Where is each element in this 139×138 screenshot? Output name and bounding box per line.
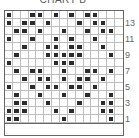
empty-stitch-cell bbox=[84, 43, 92, 51]
empty-stitch-cell bbox=[29, 99, 37, 107]
empty-stitch-cell bbox=[76, 59, 84, 67]
empty-stitch-cell bbox=[115, 67, 123, 75]
empty-stitch-cell bbox=[5, 51, 13, 59]
empty-stitch-cell bbox=[60, 43, 68, 51]
filled-stitch-cell bbox=[60, 27, 68, 35]
empty-stitch-cell bbox=[91, 75, 99, 83]
empty-stitch-cell bbox=[21, 51, 29, 59]
empty-stitch-cell bbox=[52, 67, 60, 75]
empty-stitch-cell bbox=[99, 51, 107, 59]
filled-stitch-cell bbox=[36, 91, 44, 99]
chart-row-11 bbox=[5, 35, 123, 43]
filled-stitch-cell bbox=[44, 43, 52, 51]
chart-row-1 bbox=[5, 115, 123, 123]
empty-stitch-cell bbox=[99, 67, 107, 75]
filled-stitch-cell bbox=[68, 43, 76, 51]
empty-stitch-cell bbox=[115, 35, 123, 43]
empty-stitch-cell bbox=[52, 19, 60, 27]
row-label-3: 3 bbox=[125, 99, 130, 107]
filled-stitch-cell bbox=[99, 75, 107, 83]
filled-stitch-cell bbox=[13, 27, 21, 35]
empty-stitch-cell bbox=[13, 35, 21, 43]
empty-stitch-cell bbox=[44, 11, 52, 19]
empty-stitch-cell bbox=[60, 11, 68, 19]
empty-stitch-cell bbox=[52, 99, 60, 107]
filled-stitch-cell bbox=[5, 59, 13, 67]
chart-row-14 bbox=[5, 11, 123, 19]
empty-stitch-cell bbox=[76, 107, 84, 115]
filled-stitch-cell bbox=[84, 27, 92, 35]
empty-stitch-cell bbox=[36, 99, 44, 107]
empty-stitch-cell bbox=[115, 59, 123, 67]
empty-stitch-cell bbox=[99, 83, 107, 91]
empty-stitch-cell bbox=[107, 43, 115, 51]
empty-stitch-cell bbox=[115, 99, 123, 107]
empty-stitch-cell bbox=[44, 27, 52, 35]
filled-stitch-cell bbox=[107, 107, 115, 115]
empty-stitch-cell bbox=[115, 27, 123, 35]
filled-stitch-cell bbox=[68, 59, 76, 67]
empty-stitch-cell bbox=[84, 19, 92, 27]
filled-stitch-cell bbox=[29, 67, 37, 75]
filled-stitch-cell bbox=[21, 75, 29, 83]
empty-stitch-cell bbox=[76, 27, 84, 35]
filled-stitch-cell bbox=[36, 27, 44, 35]
empty-stitch-cell bbox=[36, 35, 44, 43]
empty-stitch-cell bbox=[13, 75, 21, 83]
empty-stitch-cell bbox=[107, 11, 115, 19]
empty-stitch-cell bbox=[84, 115, 92, 123]
filled-stitch-cell bbox=[21, 43, 29, 51]
empty-stitch-cell bbox=[29, 107, 37, 115]
filled-stitch-cell bbox=[99, 99, 107, 107]
empty-stitch-cell bbox=[115, 107, 123, 115]
empty-stitch-cell bbox=[44, 67, 52, 75]
empty-stitch-cell bbox=[60, 107, 68, 115]
empty-stitch-cell bbox=[36, 83, 44, 91]
filled-stitch-cell bbox=[21, 27, 29, 35]
empty-stitch-cell bbox=[68, 91, 76, 99]
filled-stitch-cell bbox=[76, 43, 84, 51]
filled-stitch-cell bbox=[36, 67, 44, 75]
empty-stitch-cell bbox=[91, 115, 99, 123]
empty-stitch-cell bbox=[52, 91, 60, 99]
empty-stitch-cell bbox=[84, 35, 92, 43]
filled-stitch-cell bbox=[76, 75, 84, 83]
filled-stitch-cell bbox=[76, 51, 84, 59]
filled-stitch-cell bbox=[76, 99, 84, 107]
filled-stitch-cell bbox=[91, 19, 99, 27]
empty-stitch-cell bbox=[29, 51, 37, 59]
filled-stitch-cell bbox=[84, 91, 92, 99]
filled-stitch-cell bbox=[5, 107, 13, 115]
empty-stitch-cell bbox=[13, 19, 21, 27]
empty-stitch-cell bbox=[52, 27, 60, 35]
chart-row-7 bbox=[5, 67, 123, 75]
empty-stitch-cell bbox=[44, 35, 52, 43]
empty-stitch-cell bbox=[115, 91, 123, 99]
empty-stitch-cell bbox=[107, 59, 115, 67]
empty-stitch-cell bbox=[29, 115, 37, 123]
empty-stitch-cell bbox=[84, 83, 92, 91]
empty-stitch-cell bbox=[99, 91, 107, 99]
empty-stitch-cell bbox=[36, 59, 44, 67]
empty-stitch-cell bbox=[107, 19, 115, 27]
empty-stitch-cell bbox=[5, 99, 13, 107]
empty-stitch-cell bbox=[115, 19, 123, 27]
empty-stitch-cell bbox=[36, 19, 44, 27]
empty-stitch-cell bbox=[13, 59, 21, 67]
filled-stitch-cell bbox=[13, 91, 21, 99]
empty-stitch-cell bbox=[21, 67, 29, 75]
empty-stitch-cell bbox=[91, 107, 99, 115]
chart-row-10 bbox=[5, 43, 123, 51]
filled-stitch-cell bbox=[68, 51, 76, 59]
empty-stitch-cell bbox=[52, 75, 60, 83]
filled-stitch-cell bbox=[13, 107, 21, 115]
empty-stitch-cell bbox=[21, 91, 29, 99]
empty-stitch-cell bbox=[68, 27, 76, 35]
filled-stitch-cell bbox=[44, 19, 52, 27]
empty-stitch-cell bbox=[115, 83, 123, 91]
empty-stitch-cell bbox=[60, 83, 68, 91]
empty-stitch-cell bbox=[68, 99, 76, 107]
filled-stitch-cell bbox=[29, 19, 37, 27]
empty-stitch-cell bbox=[36, 115, 44, 123]
empty-stitch-cell bbox=[36, 107, 44, 115]
